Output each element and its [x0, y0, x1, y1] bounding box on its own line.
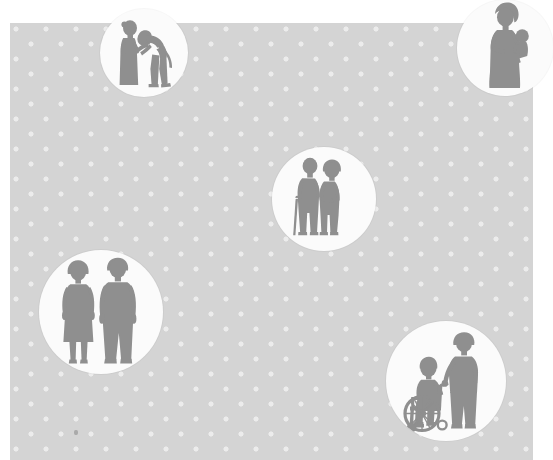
elderly-woman-figure	[320, 159, 341, 235]
examination-silhouette-icon	[100, 9, 188, 97]
photo-circle-standing-couple	[39, 250, 163, 374]
photo-circle-wheelchair	[386, 321, 506, 441]
elderly-man-with-cane-figure	[293, 158, 320, 235]
elderly-standing-figure	[120, 20, 139, 85]
standing-couple-silhouette-icon	[39, 250, 163, 374]
woman-standing-figure	[62, 260, 95, 363]
man-standing-figure	[99, 258, 136, 364]
illustration-canvas	[0, 0, 553, 460]
photo-circle-examination	[100, 9, 188, 97]
caregiver-bending-figure	[136, 30, 171, 87]
photo-circle-elderly-couple	[272, 147, 376, 251]
floor-speck-mark	[74, 430, 78, 435]
wheelchair-silhouette-icon	[386, 321, 506, 441]
mother-child-silhouette-icon	[457, 0, 553, 96]
photo-circle-mother-child	[457, 0, 553, 96]
elderly-couple-silhouette-icon	[272, 147, 376, 251]
caregiver-pushing-figure	[442, 332, 479, 428]
